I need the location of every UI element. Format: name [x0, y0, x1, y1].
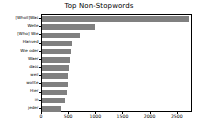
x-tick-label: 2500 [171, 115, 183, 120]
bar-row [42, 15, 193, 23]
bar [42, 16, 189, 22]
y-tick-label: Hanved [23, 40, 39, 44]
x-tick-label: 1000 [89, 115, 101, 120]
y-tick-mark [39, 18, 41, 19]
y-tick-mark [39, 100, 41, 101]
y-tick-mark [39, 59, 41, 60]
plot-area [41, 14, 192, 112]
x-tick-label: 500 [64, 115, 73, 120]
bar [42, 33, 80, 39]
y-tick-mark [39, 34, 41, 35]
y-tick-label: Hier [30, 89, 38, 93]
y-tick-mark [39, 26, 41, 27]
x-tick-label: 0 [40, 115, 43, 120]
y-tick-label: dass [29, 65, 38, 69]
y-tick-mark [39, 43, 41, 44]
bar-row [42, 80, 193, 88]
bar [42, 106, 61, 112]
bar-row [42, 105, 193, 113]
bar-row [42, 72, 193, 80]
chart-title: Top Non-Stopwords [0, 2, 198, 10]
y-tick-label: Wie oder [20, 49, 38, 53]
y-tick-mark [39, 67, 41, 68]
bar-row [42, 40, 193, 48]
y-tick-mark [39, 108, 41, 109]
chart-figure: Top Non-Stopwords [Wholl]WasWelle[Who] W… [0, 0, 198, 134]
bar [42, 41, 72, 47]
y-tick-label: Welle [27, 24, 38, 28]
bar [42, 90, 67, 96]
bar [42, 98, 65, 104]
bar-row [42, 48, 193, 56]
y-tick-mark [39, 75, 41, 76]
bar [42, 82, 68, 88]
y-tick-label: [Who] Wie [17, 32, 38, 36]
bar-row [42, 31, 193, 39]
y-tick-mark [39, 83, 41, 84]
bar-row [42, 97, 193, 105]
y-tick-label: in [35, 98, 39, 102]
x-tick-label: 1500 [117, 115, 129, 120]
y-tick-mark [39, 92, 41, 93]
bar-row [42, 64, 193, 72]
y-tick-label: Waer [28, 57, 39, 61]
x-tick-label: 2000 [144, 115, 156, 120]
bar-row [42, 56, 193, 64]
y-tick-label: jeder [28, 106, 38, 110]
bar-row [42, 89, 193, 97]
bar-row [42, 23, 193, 31]
bar [42, 57, 70, 63]
y-tick-label: wollte [26, 81, 38, 85]
bar [42, 65, 69, 71]
y-tick-label: weil [30, 73, 38, 77]
y-tick-label: [Wholl]Was [15, 16, 38, 20]
bar [42, 49, 71, 55]
bar [42, 24, 95, 30]
bar [42, 73, 68, 79]
y-tick-mark [39, 51, 41, 52]
